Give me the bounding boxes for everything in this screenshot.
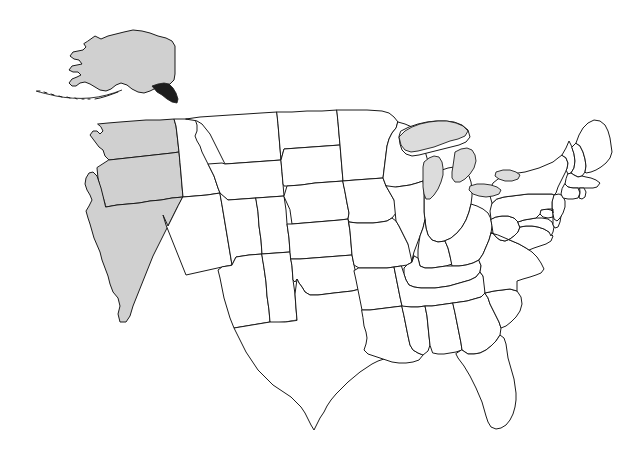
us-map-svg <box>0 0 629 457</box>
state-RI[interactable] <box>579 188 586 199</box>
lake-ontario <box>495 170 520 181</box>
us-map-figure <box>0 0 629 457</box>
state-KS[interactable] <box>287 219 352 259</box>
state-CO[interactable] <box>256 196 290 254</box>
state-SD[interactable] <box>281 145 343 186</box>
state-NE[interactable] <box>284 181 349 224</box>
